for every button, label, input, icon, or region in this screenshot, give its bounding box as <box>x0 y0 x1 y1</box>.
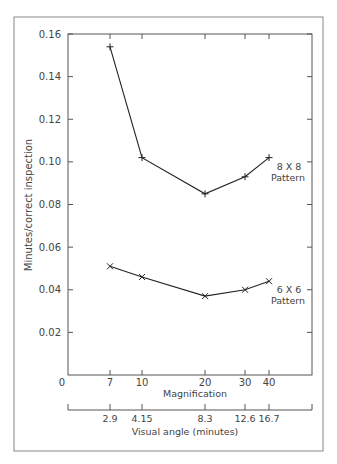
data-point <box>107 263 113 269</box>
series-label: 8 X 8 <box>277 161 302 172</box>
y-axis-label: Minutes/correct inspection <box>23 139 34 271</box>
y-tick-label: 0.14 <box>39 71 61 82</box>
x-tick-label: 20 <box>199 377 212 388</box>
series-label: Pattern <box>271 295 305 306</box>
secondary-x-tick-label: 4.15 <box>131 413 152 424</box>
y-tick-label: 0.02 <box>39 327 61 338</box>
x-axis-ticks: 72.9104.15208.33012.64016.7 <box>102 34 279 424</box>
series-line-8x8 <box>110 47 269 194</box>
chart: 0.160.140.120.100.080.060.040.02 72.9104… <box>0 0 337 464</box>
y-axis-ticks: 0.160.140.120.100.080.060.040.02 <box>39 29 312 338</box>
x-tick-label: 7 <box>107 377 113 388</box>
plot-frame <box>68 34 312 375</box>
axes <box>68 34 312 410</box>
x-tick-label: 10 <box>136 377 149 388</box>
series-label: 6 X 6 <box>277 284 302 295</box>
secondary-x-axis-line <box>68 404 312 410</box>
data-point <box>266 278 272 284</box>
series-line-6x6 <box>110 266 269 296</box>
secondary-x-axis-label: Visual angle (minutes) <box>132 426 239 437</box>
x-origin-label: 0 <box>59 377 65 388</box>
data-point <box>202 190 209 197</box>
y-tick-label: 0.12 <box>39 114 61 125</box>
y-tick-label: 0.16 <box>39 29 61 40</box>
x-tick-label: 30 <box>239 377 252 388</box>
series-label: Pattern <box>271 172 305 183</box>
secondary-x-tick-label: 8.3 <box>197 413 212 424</box>
secondary-x-tick-label: 16.7 <box>258 413 279 424</box>
data-point <box>107 43 114 50</box>
x-axis-label: Magnification <box>163 388 227 399</box>
secondary-x-tick-label: 12.6 <box>234 413 255 424</box>
y-tick-label: 0.04 <box>39 284 61 295</box>
y-tick-label: 0.08 <box>39 199 61 210</box>
y-tick-label: 0.10 <box>39 156 61 167</box>
y-tick-label: 0.06 <box>39 242 61 253</box>
data-point <box>139 274 145 280</box>
data-point <box>139 154 146 161</box>
x-tick-label: 40 <box>263 377 276 388</box>
series-group: 8 X 8Pattern6 X 6Pattern <box>107 43 306 306</box>
secondary-x-tick-label: 2.9 <box>102 413 117 424</box>
